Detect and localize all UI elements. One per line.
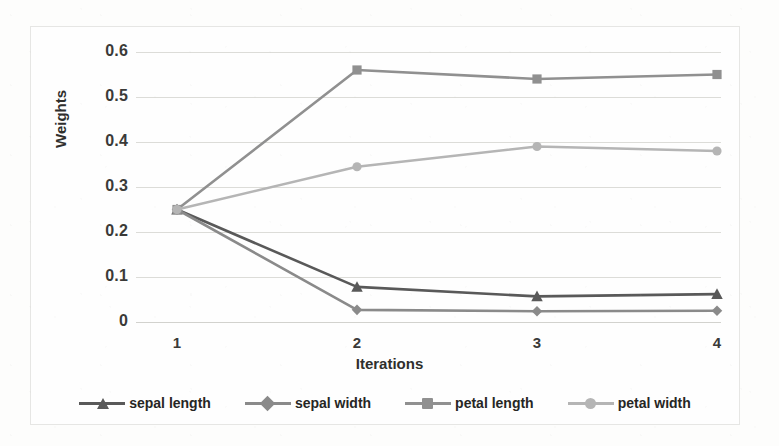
- data-point-marker: [532, 306, 543, 317]
- triangle-marker-icon: [97, 398, 109, 409]
- data-point-marker: [352, 162, 361, 171]
- chart-container: 00.10.20.30.40.50.6 1234 Iterations Weig…: [0, 0, 779, 446]
- plot-area: 00.10.20.30.40.50.6: [136, 52, 721, 322]
- chart-legend: sepal lengthsepal widthpetal lengthpetal…: [30, 388, 740, 418]
- data-point-marker: [532, 74, 541, 83]
- data-point-marker: [712, 146, 721, 155]
- legend-label: petal width: [618, 395, 691, 411]
- x-axis-tick-label: 1: [157, 334, 197, 351]
- y-axis-tick-label: 0.1: [84, 267, 128, 285]
- y-axis-tick-label: 0: [84, 312, 128, 330]
- y-axis-tick-label: 0.2: [84, 222, 128, 240]
- legend-item-petal-width[interactable]: petal width: [568, 395, 691, 411]
- x-axis-tick-label: 4: [697, 334, 737, 351]
- series-sepal-width: [172, 204, 723, 316]
- legend-item-sepal-width[interactable]: sepal width: [245, 395, 371, 411]
- data-point-marker: [352, 65, 361, 74]
- y-axis-tick-label: 0.5: [84, 87, 128, 105]
- diamond-marker-icon: [260, 396, 276, 412]
- legend-swatch-circle-icon: [568, 396, 614, 410]
- legend-swatch-square-icon: [405, 396, 451, 410]
- x-axis-tick-label: 3: [517, 334, 557, 351]
- series-petal-width: [172, 142, 721, 214]
- data-point-marker: [352, 305, 363, 316]
- gridline: [136, 322, 721, 323]
- legend-label: sepal width: [295, 395, 371, 411]
- data-point-marker: [172, 205, 181, 214]
- y-axis-title: Weights: [52, 90, 69, 148]
- y-axis-tick-label: 0.3: [84, 177, 128, 195]
- y-axis-tick-label: 0.4: [84, 132, 128, 150]
- square-marker-icon: [422, 398, 433, 409]
- y-axis-tick-label: 0.6: [84, 42, 128, 60]
- series-line: [177, 210, 717, 297]
- legend-item-petal-length[interactable]: petal length: [405, 395, 534, 411]
- legend-label: petal length: [455, 395, 534, 411]
- series-line: [177, 70, 717, 210]
- data-point-marker: [532, 142, 541, 151]
- data-point-marker: [712, 305, 723, 316]
- legend-swatch-triangle-icon: [79, 396, 125, 410]
- legend-item-sepal-length[interactable]: sepal length: [79, 395, 211, 411]
- legend-swatch-diamond-icon: [245, 396, 291, 410]
- data-point-marker: [712, 70, 721, 79]
- legend-label: sepal length: [129, 395, 211, 411]
- x-axis-tick-label: 2: [337, 334, 377, 351]
- series-line: [177, 147, 717, 210]
- x-axis-title: Iterations: [0, 355, 779, 372]
- series-layer: [136, 52, 721, 322]
- circle-marker-icon: [585, 398, 596, 409]
